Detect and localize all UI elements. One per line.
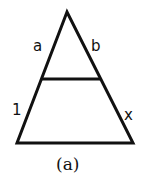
caption: (a) — [56, 154, 79, 174]
label-a: a — [33, 37, 42, 55]
triangle-diagram: a b 1 x (a) — [0, 0, 146, 182]
label-x: x — [124, 106, 133, 124]
label-1: 1 — [12, 101, 22, 119]
label-b: b — [91, 37, 101, 55]
